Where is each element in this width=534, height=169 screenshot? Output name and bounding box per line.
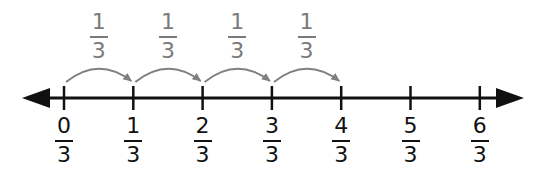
right-arrowhead-icon	[496, 88, 524, 108]
jump-arc-arrow-icon	[205, 69, 270, 82]
tick-label: 03	[49, 115, 79, 166]
jump-arcs	[66, 69, 339, 82]
tick-label: 33	[257, 115, 287, 166]
denominator: 3	[326, 144, 356, 166]
jump-label: 13	[84, 11, 114, 62]
tick-label: 53	[396, 115, 426, 166]
jump-arc-arrow-icon	[274, 69, 339, 82]
denominator: 3	[49, 144, 79, 166]
numerator: 4	[326, 115, 356, 137]
denominator: 3	[188, 144, 218, 166]
left-arrowhead-icon	[22, 88, 50, 108]
denominator: 3	[465, 144, 495, 166]
tick-label: 63	[465, 115, 495, 166]
numerator: 1	[153, 11, 183, 33]
tick-label: 23	[188, 115, 218, 166]
denominator: 3	[222, 40, 252, 62]
numerator: 2	[188, 115, 218, 137]
denominator: 3	[118, 144, 148, 166]
number-line-diagram: 03132333435363 13131313	[0, 0, 534, 169]
jump-label: 13	[292, 11, 322, 62]
numerator: 6	[465, 115, 495, 137]
numerator: 1	[118, 115, 148, 137]
numerator: 3	[257, 115, 287, 137]
jump-arc-arrow-icon	[135, 69, 200, 82]
jump-label: 13	[153, 11, 183, 62]
jump-arc-arrow-icon	[66, 69, 131, 82]
numerator: 0	[49, 115, 79, 137]
denominator: 3	[153, 40, 183, 62]
jump-label: 13	[222, 11, 252, 62]
denominator: 3	[257, 144, 287, 166]
denominator: 3	[292, 40, 322, 62]
numerator: 1	[222, 11, 252, 33]
numerator: 5	[396, 115, 426, 137]
denominator: 3	[84, 40, 114, 62]
numerator: 1	[84, 11, 114, 33]
tick-label: 43	[326, 115, 356, 166]
numerator: 1	[292, 11, 322, 33]
tick-label: 13	[118, 115, 148, 166]
denominator: 3	[396, 144, 426, 166]
